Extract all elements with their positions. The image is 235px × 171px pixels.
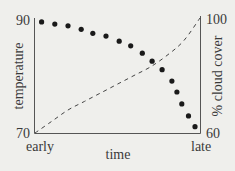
temperature-dot xyxy=(179,101,184,106)
temperature-dot xyxy=(128,43,133,48)
temperature-dot xyxy=(160,67,165,72)
temperature-dot xyxy=(79,27,84,32)
temperature-dot xyxy=(117,39,122,44)
temperature-dot xyxy=(90,31,95,36)
temperature-dot xyxy=(140,51,145,56)
temperature-dot xyxy=(150,59,155,64)
temperature-dot xyxy=(169,79,174,84)
temperature-dot xyxy=(186,113,191,118)
y2-tick-100: 100 xyxy=(206,12,227,27)
y-axis-title: temperature xyxy=(11,43,26,110)
y-tick-90: 90 xyxy=(16,13,30,28)
x-axis-title: time xyxy=(106,147,131,162)
chart: 90 70 100 60 early late time temperature… xyxy=(0,0,235,171)
axes xyxy=(35,16,201,134)
cloud-cover-line xyxy=(35,18,200,133)
y2-axis-title: % cloud cover xyxy=(210,35,225,116)
x-tick-early: early xyxy=(26,139,54,154)
temperature-dot xyxy=(192,124,197,129)
temperature-dot xyxy=(52,22,57,27)
x-tick-late: late xyxy=(191,139,211,154)
temperature-dot xyxy=(39,19,44,24)
temperature-dots xyxy=(39,19,198,129)
temperature-dot xyxy=(65,23,70,28)
temperature-dot xyxy=(103,34,108,39)
temperature-dot xyxy=(174,89,179,94)
